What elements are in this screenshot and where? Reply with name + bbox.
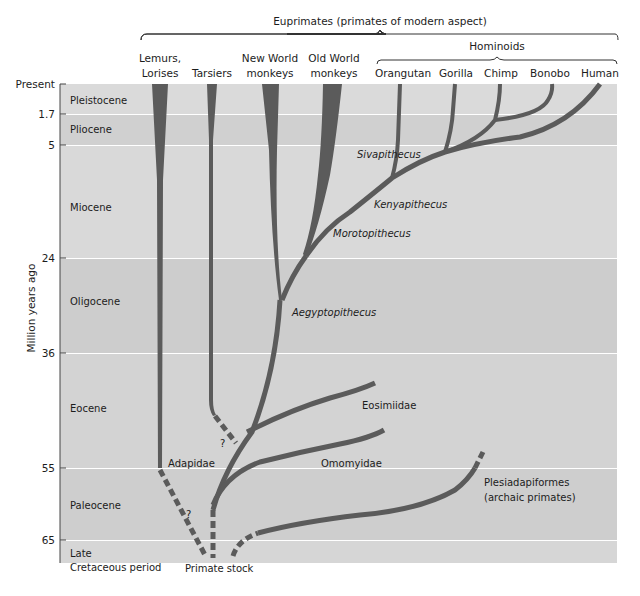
band-oligocene [60, 259, 617, 353]
epoch-late: Late [70, 548, 92, 559]
tick-present: Present [16, 78, 55, 90]
taxon-orangutan: Orangutan [375, 67, 431, 79]
epoch-miocene: Miocene [70, 202, 112, 213]
time-axis: Present 1.7 5 24 36 55 65 Million years … [16, 78, 66, 563]
euprimates-label: Euprimates (primates of modern aspect) [273, 15, 487, 27]
epoch-pliocene: Pliocene [70, 124, 112, 135]
taxon-gorilla: Gorilla [439, 67, 473, 79]
question-mark-adapidae: ? [186, 509, 191, 520]
taxon-old-world-line1: Old World [308, 52, 359, 64]
label-adapidae: Adapidae [168, 458, 215, 469]
label-omomyidae: Omomyidae [321, 458, 382, 469]
taxon-old-world-line2: monkeys [310, 67, 357, 79]
taxon-human: Human [581, 67, 619, 79]
tick-65: 65 [42, 534, 55, 546]
label-kenyapithecus: Kenyapithecus [374, 199, 447, 210]
epoch-paleocene: Paleocene [70, 500, 121, 511]
band-late-cretaceous [60, 541, 617, 563]
taxon-tarsiers: Tarsiers [191, 67, 232, 79]
group-brackets: Euprimates (primates of modern aspect) H… [141, 15, 618, 64]
taxon-chimp: Chimp [484, 67, 518, 79]
epoch-cretaceous-period: Cretaceous period [70, 562, 161, 573]
taxa-labels: Lemurs, Lorises Tarsiers New World monke… [139, 52, 619, 79]
tick-5: 5 [48, 139, 55, 151]
epoch-pleistocene: Pleistocene [70, 95, 127, 106]
question-mark-tarsiers: ? [220, 438, 225, 449]
euprimates-bracket-right [287, 30, 386, 34]
label-aegyptopithecus: Aegyptopithecus [291, 307, 376, 318]
label-eosimiidae: Eosimiidae [362, 400, 416, 411]
tick-1-7: 1.7 [38, 108, 55, 120]
band-miocene [60, 146, 617, 258]
band-eocene [60, 354, 617, 468]
label-plesiadapiformes: Plesiadapiformes [484, 477, 569, 488]
label-archaic-primates: (archaic primates) [484, 492, 576, 503]
hominoids-label: Hominoids [469, 40, 525, 52]
tick-36: 36 [42, 347, 56, 359]
band-pliocene [60, 115, 617, 145]
epoch-oligocene: Oligocene [70, 296, 120, 307]
label-primate-stock: Primate stock [185, 563, 254, 574]
primate-phylogeny-diagram: Present 1.7 5 24 36 55 65 Million years … [0, 0, 640, 596]
taxon-new-world-line2: monkeys [246, 67, 293, 79]
hominoids-bracket [377, 57, 617, 64]
taxon-lemurs-line2: Lorises [142, 67, 179, 79]
taxon-lemurs-line1: Lemurs, [139, 52, 181, 64]
taxon-new-world-line1: New World [242, 52, 298, 64]
tick-55: 55 [42, 462, 55, 474]
tick-24: 24 [42, 252, 56, 264]
taxon-bonobo: Bonobo [530, 67, 570, 79]
label-morotopithecus: Morotopithecus [333, 228, 411, 239]
euprimates-bracket [141, 30, 386, 40]
y-axis-label: Million years ago [25, 264, 37, 353]
label-sivapithecus: Sivapithecus [357, 149, 421, 160]
epoch-eocene: Eocene [70, 403, 107, 414]
